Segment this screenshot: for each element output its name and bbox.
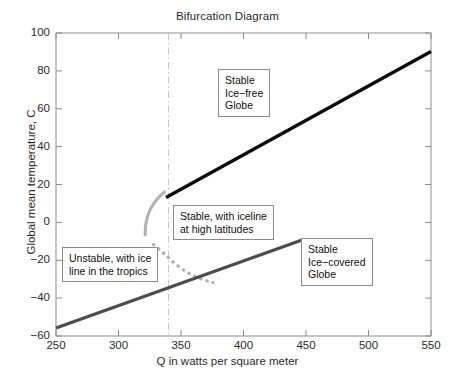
annotation-ice-free-line2: Ice−free	[225, 87, 263, 100]
x-tick-label-350: 350	[161, 339, 201, 351]
x-tick-label-400: 400	[224, 339, 264, 351]
annotation-stable-high-latitude: Stable, with iceline at high latitudes	[173, 205, 274, 240]
x-tick-label-300: 300	[99, 339, 139, 351]
y-tick-label-60: 60	[18, 102, 50, 114]
annotation-stable-ice-covered: Stable Ice−covered Globe	[301, 238, 373, 286]
x-axis-label: Q in watts per square meter	[0, 355, 455, 367]
annotation-ice-free-line3: Globe	[225, 99, 263, 112]
x-tick-label-550: 550	[411, 339, 451, 351]
series-unstable-tropics	[154, 245, 214, 283]
y-tick-label-20: 20	[18, 178, 50, 190]
annotation-stable-ice-free: Stable Ice−free Globe	[218, 69, 270, 117]
bifurcation-diagram-figure: Bifurcation Diagram	[0, 0, 455, 379]
y-tick-label-100: 100	[18, 26, 50, 38]
x-tick-label-500: 500	[349, 339, 389, 351]
annotation-ice-covered-line3: Globe	[308, 268, 366, 281]
y-tick-label-minus20: −20	[14, 253, 50, 265]
annotation-ice-covered-line2: Ice−covered	[308, 256, 366, 269]
plot-canvas	[0, 0, 455, 379]
y-tick-label-0: 0	[18, 215, 50, 227]
x-tick-label-450: 450	[286, 339, 326, 351]
annotation-high-lat-line1: Stable, with iceline	[180, 210, 267, 223]
y-tick-label-minus40: −40	[14, 291, 50, 303]
annotation-unstable-line1: Unstable, with ice	[69, 252, 151, 265]
annotation-ice-covered-line1: Stable	[308, 243, 366, 256]
y-tick-label-80: 80	[18, 64, 50, 76]
y-tick-label-minus60: −60	[14, 329, 50, 341]
annotation-unstable-tropics: Unstable, with ice line in the tropics	[62, 247, 158, 282]
annotation-unstable-line2: line in the tropics	[69, 265, 151, 278]
annotation-ice-free-line1: Stable	[225, 74, 263, 87]
series-stable-high-latitude	[145, 192, 164, 235]
annotation-high-lat-line2: at high latitudes	[180, 223, 267, 236]
series-stable-ice-free	[166, 52, 431, 198]
y-tick-label-40: 40	[18, 140, 50, 152]
